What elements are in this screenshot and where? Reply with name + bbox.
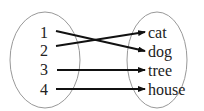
domain-item-2: 2 bbox=[40, 42, 48, 59]
codomain-item-house: house bbox=[148, 81, 185, 98]
domain-item-4: 4 bbox=[40, 81, 48, 98]
mapping-diagram: 1 2 3 4 cat dog tree house bbox=[0, 0, 204, 111]
domain-item-3: 3 bbox=[40, 61, 48, 78]
domain-item-1: 1 bbox=[40, 24, 48, 41]
codomain-item-tree: tree bbox=[148, 62, 172, 79]
codomain-item-dog: dog bbox=[148, 43, 172, 61]
codomain-item-cat: cat bbox=[148, 24, 167, 41]
